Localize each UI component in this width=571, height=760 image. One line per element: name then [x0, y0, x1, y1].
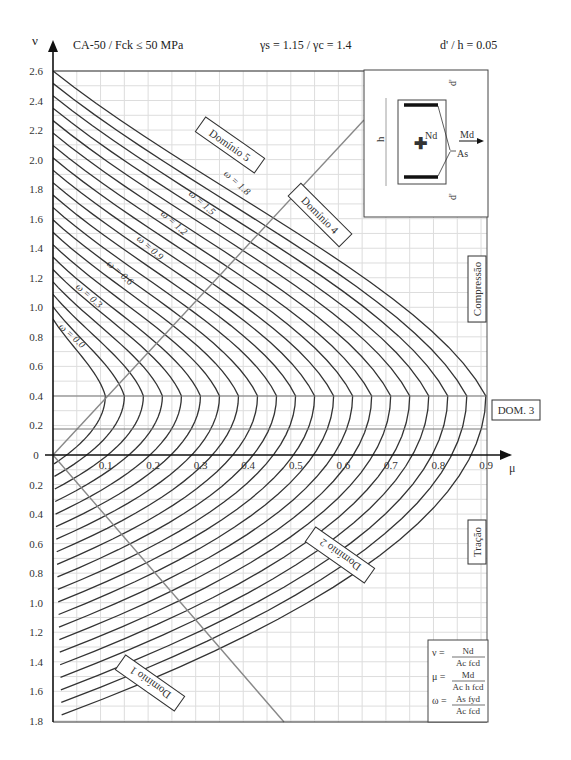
svg-text:1.0: 1.0	[29, 301, 43, 313]
svg-text:0.6: 0.6	[336, 459, 350, 471]
omega-labels: ω = 0.0ω = 0.3ω = 0.6ω = 0.9ω = 1.2ω = 1…	[57, 168, 253, 350]
domain-3-label: DOM. 3	[492, 400, 540, 420]
domain-2-label: Domínio 2	[305, 527, 374, 583]
svg-text:1.6: 1.6	[29, 213, 43, 225]
svg-text:0.2: 0.2	[29, 479, 43, 491]
svg-text:0.6: 0.6	[29, 360, 43, 372]
svg-text:0.9: 0.9	[479, 459, 493, 471]
svg-text:ω =: ω =	[432, 695, 447, 706]
svg-text:0.2: 0.2	[29, 419, 43, 431]
svg-text:0.4: 0.4	[29, 390, 43, 402]
inset-h-label: h	[374, 136, 386, 142]
svg-text:1.6: 1.6	[29, 685, 43, 697]
compression-label: Compressão	[468, 256, 486, 322]
svg-text:0.7: 0.7	[384, 459, 398, 471]
svg-text:Md: Md	[462, 670, 475, 680]
svg-text:0.1: 0.1	[99, 459, 113, 471]
svg-text:1.4: 1.4	[29, 242, 43, 254]
tension-label: Tração	[468, 520, 486, 564]
cover-ratio: d' / h = 0.05	[440, 38, 497, 53]
svg-text:DOM. 3: DOM. 3	[498, 404, 535, 416]
svg-text:0: 0	[33, 449, 39, 461]
svg-text:ω = 1.8: ω = 1.8	[222, 168, 253, 197]
svg-text:Ac h fcd: Ac h fcd	[453, 682, 484, 692]
inset-md-label: Md	[460, 129, 474, 140]
svg-text:Tração: Tração	[471, 526, 483, 557]
svg-text:Ac fcd: Ac fcd	[456, 706, 481, 716]
svg-text:2.6: 2.6	[29, 65, 43, 77]
svg-text:1.8: 1.8	[29, 183, 43, 195]
svg-text:0.8: 0.8	[29, 331, 43, 343]
svg-text:Ac fcd: Ac fcd	[456, 658, 481, 668]
x-axis-arrow-icon	[500, 450, 512, 460]
svg-text:0.6: 0.6	[29, 538, 43, 550]
interaction-diagram: 0.10.20.30.40.50.60.70.80.900.20.40.60.8…	[0, 0, 571, 760]
domain-4-label: Domínio 4	[288, 183, 352, 247]
svg-text:0.4: 0.4	[29, 508, 43, 520]
svg-text:1.4: 1.4	[29, 656, 43, 668]
svg-text:1.2: 1.2	[29, 272, 43, 284]
steel-concrete-spec: CA-50 / Fck ≤ 50 MPa	[73, 38, 183, 53]
svg-text:0.8: 0.8	[29, 567, 43, 579]
svg-text:Nd: Nd	[463, 646, 474, 656]
svg-text:0.8: 0.8	[432, 459, 446, 471]
svg-text:0.2: 0.2	[146, 459, 160, 471]
svg-text:1.0: 1.0	[29, 597, 43, 609]
svg-text:2.2: 2.2	[29, 124, 43, 136]
inset-nd-label: Nd	[425, 130, 437, 141]
y-axis-symbol: ν	[32, 33, 38, 49]
safety-factors: γs = 1.15 / γc = 1.4	[260, 38, 351, 53]
svg-text:ω = 0.6: ω = 0.6	[105, 258, 136, 287]
svg-text:1.2: 1.2	[29, 626, 43, 638]
svg-text:0.4: 0.4	[241, 459, 255, 471]
svg-text:Compressão: Compressão	[471, 261, 483, 316]
svg-text:2.0: 2.0	[29, 154, 43, 166]
svg-text:ν =: ν =	[432, 647, 445, 658]
svg-text:Domínio 4: Domínio 4	[299, 194, 341, 236]
domain-1-label: Domínio 1	[115, 655, 184, 711]
svg-text:0.5: 0.5	[289, 459, 303, 471]
inset-as-label: As	[457, 148, 468, 159]
svg-text:As fyd: As fyd	[456, 694, 481, 704]
inset-d-top-label: d'	[447, 79, 458, 86]
y-axis-arrow-icon	[48, 40, 58, 52]
svg-text:0.3: 0.3	[194, 459, 208, 471]
svg-text:2.4: 2.4	[29, 95, 43, 107]
svg-text:1.8: 1.8	[29, 715, 43, 727]
inset-d-bottom-label: d'	[447, 193, 458, 200]
domain-boundary-1-2	[53, 455, 284, 722]
x-axis-symbol: μ	[509, 461, 515, 475]
svg-text:μ =: μ =	[432, 671, 446, 682]
